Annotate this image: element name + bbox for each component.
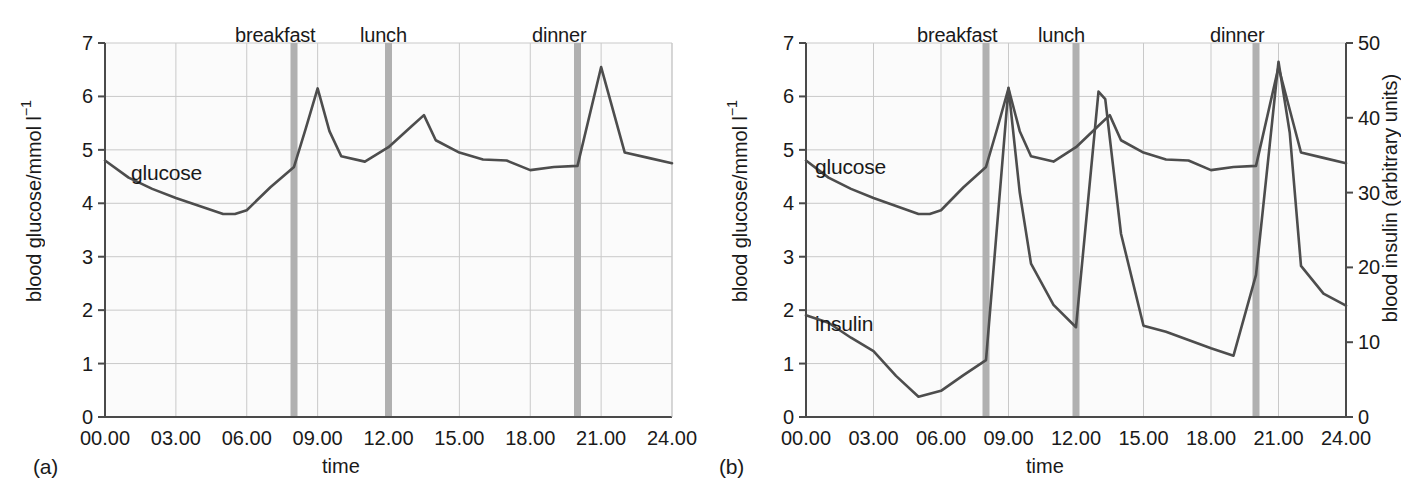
x-axis-title-b: time bbox=[1026, 455, 1064, 478]
svg-text:03.00: 03.00 bbox=[151, 427, 201, 449]
y-axis-title-right-b: blood insulin (arbitrary units) bbox=[1379, 74, 1402, 322]
svg-text:18.00: 18.00 bbox=[1186, 427, 1236, 449]
svg-text:50: 50 bbox=[1358, 32, 1380, 54]
svg-text:3: 3 bbox=[82, 246, 93, 268]
svg-text:0: 0 bbox=[82, 406, 93, 428]
svg-text:30: 30 bbox=[1358, 182, 1380, 204]
svg-text:12.00: 12.00 bbox=[363, 427, 413, 449]
svg-text:1: 1 bbox=[82, 353, 93, 375]
meal-label-dinner-b: dinner bbox=[1210, 24, 1264, 47]
svg-text:10: 10 bbox=[1358, 331, 1380, 353]
svg-text:24.00: 24.00 bbox=[1321, 427, 1371, 449]
svg-text:0: 0 bbox=[783, 406, 794, 428]
svg-text:21.00: 21.00 bbox=[1253, 427, 1303, 449]
meal-label-breakfast-b: breakfast bbox=[917, 24, 997, 47]
meal-marker-bar bbox=[1253, 43, 1260, 417]
meal-marker-bar bbox=[574, 43, 581, 417]
svg-text:6: 6 bbox=[783, 85, 794, 107]
svg-text:18.00: 18.00 bbox=[505, 427, 555, 449]
svg-text:4: 4 bbox=[783, 192, 794, 214]
svg-text:7: 7 bbox=[783, 32, 794, 54]
meal-marker-bar bbox=[291, 43, 298, 417]
chart-svg-a: 0123456700.0003.0006.0009.0012.0015.0018… bbox=[0, 0, 713, 501]
panel-b: 012345670102030405000.0003.0006.0009.001… bbox=[713, 0, 1425, 501]
svg-text:12.00: 12.00 bbox=[1051, 427, 1101, 449]
svg-text:20: 20 bbox=[1358, 256, 1380, 278]
svg-text:15.00: 15.00 bbox=[434, 427, 484, 449]
meal-marker-bar bbox=[385, 43, 392, 417]
svg-text:09.00: 09.00 bbox=[293, 427, 343, 449]
y-axis-title-b: blood glucose/mmol l−1 bbox=[724, 100, 752, 302]
series-label-insulin-b: insulin bbox=[815, 312, 873, 336]
meal-label-lunch-b: lunch bbox=[1038, 24, 1085, 47]
chart-svg-b: 012345670102030405000.0003.0006.0009.001… bbox=[713, 0, 1425, 501]
svg-text:7: 7 bbox=[82, 32, 93, 54]
series-label-glucose-a: glucose bbox=[131, 161, 202, 185]
meal-label-dinner-a: dinner bbox=[532, 24, 586, 47]
panel-a: 0123456700.0003.0006.0009.0012.0015.0018… bbox=[0, 0, 713, 501]
svg-text:2: 2 bbox=[82, 299, 93, 321]
meal-label-lunch-a: lunch bbox=[360, 24, 407, 47]
svg-text:06.00: 06.00 bbox=[916, 427, 966, 449]
svg-text:1: 1 bbox=[783, 353, 794, 375]
meal-label-breakfast-a: breakfast bbox=[235, 24, 315, 47]
svg-text:40: 40 bbox=[1358, 107, 1380, 129]
series-label-glucose-b: glucose bbox=[815, 155, 886, 179]
panel-label-a: (a) bbox=[33, 455, 58, 479]
panel-label-b: (b) bbox=[719, 455, 744, 479]
svg-text:09.00: 09.00 bbox=[983, 427, 1033, 449]
y-axis-title-a: blood glucose/mmol l−1 bbox=[18, 100, 46, 302]
svg-text:3: 3 bbox=[783, 246, 794, 268]
svg-text:24.00: 24.00 bbox=[647, 427, 697, 449]
svg-text:03.00: 03.00 bbox=[848, 427, 898, 449]
svg-text:4: 4 bbox=[82, 192, 93, 214]
svg-text:2: 2 bbox=[783, 299, 794, 321]
svg-text:00.00: 00.00 bbox=[80, 427, 130, 449]
meal-marker-bar bbox=[1073, 43, 1080, 417]
svg-text:06.00: 06.00 bbox=[222, 427, 272, 449]
svg-text:5: 5 bbox=[783, 139, 794, 161]
svg-text:5: 5 bbox=[82, 139, 93, 161]
figure-root: 0123456700.0003.0006.0009.0012.0015.0018… bbox=[0, 0, 1425, 501]
svg-text:00.00: 00.00 bbox=[781, 427, 831, 449]
svg-text:21.00: 21.00 bbox=[576, 427, 626, 449]
svg-text:6: 6 bbox=[82, 85, 93, 107]
svg-text:15.00: 15.00 bbox=[1118, 427, 1168, 449]
x-axis-title-a: time bbox=[322, 455, 360, 478]
svg-text:0: 0 bbox=[1358, 406, 1369, 428]
